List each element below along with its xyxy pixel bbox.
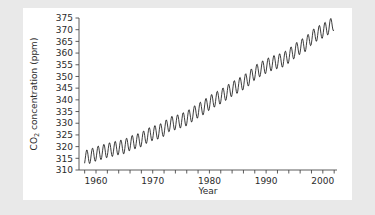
y-axis-title-co: CO: [29, 137, 39, 150]
chart-card: 3103153203253303353403453503553603653703…: [23, 8, 352, 200]
y-tick-label: 365: [56, 37, 73, 47]
y-tick-label: 370: [56, 25, 73, 35]
y-tick-label: 360: [56, 48, 73, 58]
y-tick-label: 320: [56, 142, 73, 152]
y-tick-label: 345: [56, 83, 73, 93]
y-tick-label: 330: [56, 118, 73, 128]
y-tick-label: 315: [56, 154, 73, 164]
co2-keeling-curve-chart: 3103153203253303353403453503553603653703…: [23, 8, 352, 200]
y-tick-label: 355: [56, 60, 73, 70]
x-tick-label: 2000: [311, 176, 334, 186]
x-tick-label: 1980: [198, 176, 221, 186]
y-tick-label: 325: [56, 130, 73, 140]
y-tick-label: 335: [56, 107, 73, 117]
y-tick-label: 340: [56, 95, 73, 105]
x-tick-label: 1990: [255, 176, 278, 186]
y-tick-label: 310: [56, 165, 73, 175]
y-tick-label: 350: [56, 72, 73, 82]
y-axis-title-rest: concentration (ppm): [29, 38, 39, 133]
x-axis-title-text: Year: [197, 186, 217, 196]
x-tick-label: 1960: [85, 176, 108, 186]
y-axis-tick-labels: 3103153203253303353403453503553603653703…: [56, 13, 73, 175]
y-tick-label: 375: [56, 13, 73, 23]
x-tick-label: 1970: [141, 176, 164, 186]
